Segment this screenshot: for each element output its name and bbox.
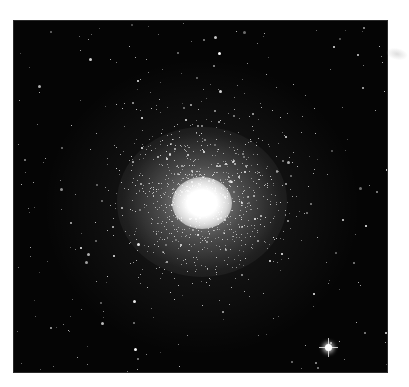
star (105, 106, 106, 107)
star (227, 239, 228, 240)
star (40, 369, 41, 370)
star (151, 187, 152, 188)
star (192, 171, 193, 172)
star (270, 204, 271, 205)
star (161, 205, 162, 206)
star (216, 245, 217, 246)
star (178, 167, 179, 168)
star (137, 358, 139, 360)
star (244, 291, 245, 292)
star (254, 236, 255, 237)
star (172, 193, 173, 194)
star (214, 110, 216, 112)
star (363, 65, 364, 66)
star (238, 196, 239, 197)
star (236, 153, 237, 154)
star (328, 283, 329, 284)
star (184, 199, 185, 200)
star (301, 240, 302, 241)
star (313, 293, 315, 295)
star (134, 348, 137, 351)
star (37, 124, 38, 125)
star (153, 159, 154, 160)
star (202, 149, 203, 150)
star (176, 166, 177, 167)
star (124, 188, 125, 189)
star (270, 176, 271, 177)
star (353, 262, 355, 264)
star (283, 239, 284, 240)
star (223, 222, 224, 223)
star (196, 209, 197, 210)
star (60, 188, 63, 191)
star (267, 199, 268, 200)
star (139, 159, 140, 160)
star (145, 154, 146, 155)
star (263, 196, 264, 197)
star (235, 231, 236, 232)
star (293, 84, 294, 85)
star (204, 174, 205, 175)
image-caption (14, 377, 387, 387)
star (266, 74, 267, 75)
star (308, 186, 309, 187)
star (194, 160, 195, 161)
star (90, 149, 91, 150)
star (218, 237, 219, 238)
star (129, 243, 130, 244)
star (163, 210, 164, 211)
star (215, 238, 216, 239)
star (236, 234, 237, 235)
star (132, 182, 133, 183)
star (174, 189, 175, 190)
star (289, 157, 290, 158)
star (204, 238, 205, 239)
star (160, 112, 161, 113)
star (256, 142, 257, 143)
star (107, 230, 108, 231)
star (222, 239, 223, 240)
star (166, 151, 167, 152)
star (39, 272, 40, 273)
star (249, 171, 250, 172)
star (290, 175, 292, 177)
star (276, 156, 277, 157)
star (135, 57, 136, 58)
star (239, 227, 240, 228)
star (221, 187, 222, 188)
star (216, 172, 217, 173)
star (207, 145, 208, 146)
star (192, 205, 193, 206)
star (195, 271, 196, 272)
star (20, 53, 21, 54)
star (61, 209, 62, 210)
star (243, 156, 245, 158)
star (257, 43, 258, 44)
star (144, 204, 145, 205)
star (18, 267, 19, 268)
star (204, 247, 205, 248)
star (240, 260, 241, 261)
star (171, 272, 172, 273)
star (177, 165, 178, 166)
star (164, 239, 165, 240)
star (317, 159, 318, 160)
star (241, 181, 242, 182)
star (173, 215, 174, 216)
star (185, 259, 186, 260)
star (223, 189, 224, 190)
star (306, 212, 308, 214)
star (238, 132, 239, 133)
star (212, 175, 213, 176)
star (199, 217, 201, 219)
star (213, 174, 214, 175)
star (130, 263, 131, 264)
star (297, 166, 298, 167)
star (231, 229, 232, 230)
star (197, 125, 199, 127)
star (50, 31, 52, 33)
star (290, 189, 291, 190)
star (162, 129, 163, 130)
star (156, 234, 157, 235)
star (243, 197, 244, 198)
